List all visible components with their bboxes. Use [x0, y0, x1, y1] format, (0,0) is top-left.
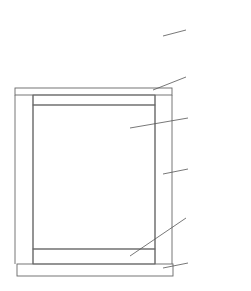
timber-skid — [17, 264, 173, 276]
leader-lines — [130, 30, 188, 268]
leader-trim10 — [163, 169, 188, 174]
leader-door — [130, 118, 188, 128]
front-elevation-drawing — [0, 0, 251, 291]
fascia-board — [15, 88, 172, 95]
leader-trim8 — [130, 218, 186, 256]
door-top-trim — [33, 95, 155, 105]
shed-frame — [15, 88, 173, 276]
leader-shingles — [163, 30, 186, 36]
